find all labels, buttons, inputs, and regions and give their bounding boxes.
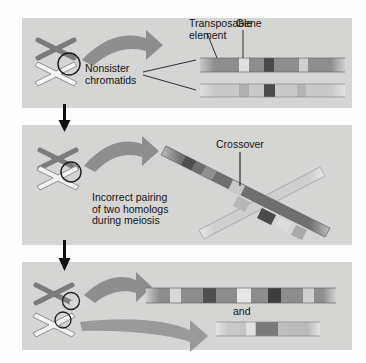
label-crossover: Crossover [216, 139, 264, 151]
panel-incorrect-pairing [22, 125, 352, 245]
label-incorrect-pairing: Incorrect pairing of two homologs during… [92, 192, 168, 227]
label-and: and [233, 306, 251, 318]
label-nonsister-chromatids: Nonsister chromatids [85, 63, 136, 86]
label-gene: Gene [236, 18, 262, 30]
panel-pairing-overview [22, 18, 352, 108]
panel-crossover-products [22, 262, 352, 350]
